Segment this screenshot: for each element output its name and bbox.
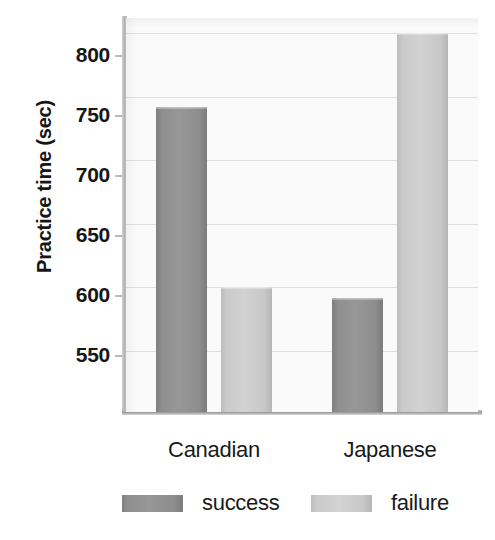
bar-japanese-failure[interactable]	[397, 33, 448, 412]
legend-entry-success[interactable]: success	[122, 492, 279, 514]
chart-legend: success failure	[0, 492, 495, 526]
y-tick-label-750: 750	[54, 104, 110, 125]
bar-canadian-failure[interactable]	[221, 287, 272, 412]
x-category-label-canadian: Canadian	[114, 437, 314, 463]
legend-swatch-success-icon	[122, 495, 183, 512]
bar-highlight	[332, 298, 383, 300]
legend-entry-failure[interactable]: failure	[311, 492, 449, 514]
y-tick-label-800: 800	[54, 44, 110, 65]
y-axis-tick-labels: 800 750 700 650 600 550	[54, 0, 110, 540]
bar-highlight	[397, 33, 448, 35]
bar-highlight	[156, 107, 207, 109]
legend-label-failure: failure	[391, 492, 449, 514]
legend-swatch-failure-icon	[311, 495, 372, 512]
y-axis-title: Practice time (sec)	[33, 62, 56, 312]
y-tick-label-650: 650	[54, 224, 110, 245]
x-category-label-japanese: Japanese	[290, 437, 490, 463]
bar-japanese-success[interactable]	[332, 298, 383, 412]
bar-canadian-success[interactable]	[156, 107, 207, 412]
y-tick-label-600: 600	[54, 284, 110, 305]
y-tick-label-700: 700	[54, 164, 110, 185]
plot-area	[126, 18, 478, 412]
y-tick-label-550: 550	[54, 344, 110, 365]
bar-chart-figure: Practice time (sec) 800 750 700 650 600 …	[0, 0, 495, 540]
legend-label-success: success	[202, 492, 279, 514]
bar-highlight	[221, 287, 272, 289]
